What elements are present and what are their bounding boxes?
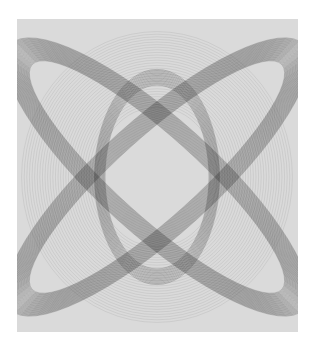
artwork-panel xyxy=(17,19,298,332)
caption xyxy=(0,334,315,347)
harmonograph-drawing xyxy=(17,19,298,332)
